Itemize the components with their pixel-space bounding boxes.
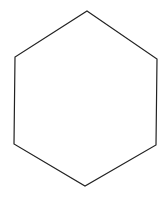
- hexagon-shape: [14, 11, 157, 186]
- diagram-canvas: [0, 0, 166, 198]
